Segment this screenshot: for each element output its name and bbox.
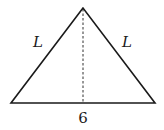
- right-side-label: L: [122, 35, 132, 50]
- left-side-label: L: [33, 35, 43, 50]
- triangle-diagram: L L 6: [0, 0, 164, 130]
- base-length-label: 6: [78, 111, 88, 126]
